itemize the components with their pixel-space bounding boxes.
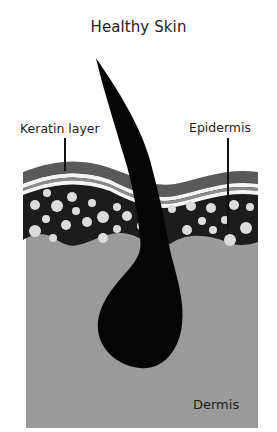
keratin-layer-label: Keratin layer	[20, 121, 100, 136]
healthy-skin-diagram: Healthy Skin	[0, 0, 277, 432]
epidermis-label: Epidermis	[189, 120, 251, 135]
skin-cross-section	[0, 0, 277, 432]
dermis-label: Dermis	[193, 397, 239, 412]
